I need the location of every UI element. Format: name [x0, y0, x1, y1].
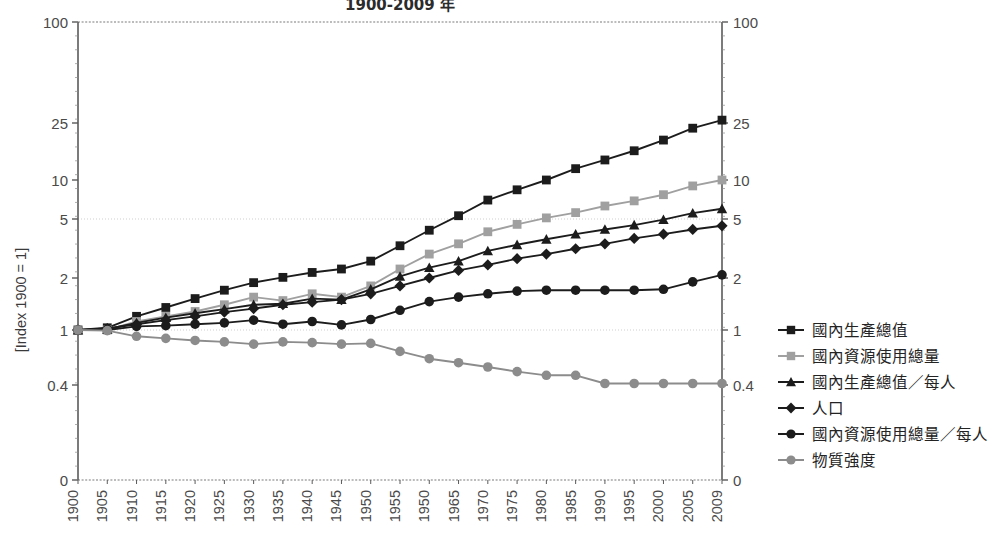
y-tick-label-left: 1 [60, 322, 68, 339]
data-point [629, 285, 639, 295]
x-tick-label: 1970 [475, 490, 491, 522]
data-point [161, 321, 171, 331]
chart-title: 1900-2009 年 [345, 0, 455, 14]
data-point [600, 285, 610, 295]
chart-container: 1900-2009 年 10025105210.40 10025105210.4… [0, 0, 1006, 548]
data-point [571, 371, 581, 381]
y-tick-label-left: 0 [60, 472, 68, 489]
x-tick-label: 1955 [387, 490, 403, 522]
x-tick-label: 1905 [94, 490, 110, 522]
data-point [132, 332, 142, 342]
x-tick-label: 1900 [65, 490, 81, 522]
x-tick-label: 1910 [124, 490, 140, 522]
data-point [483, 196, 492, 205]
data-point [249, 339, 259, 349]
x-tick-label: 1940 [299, 490, 315, 522]
data-point [542, 371, 552, 381]
data-point [718, 176, 727, 185]
x-tick-label: 1950 [358, 490, 374, 522]
data-point [396, 241, 405, 250]
data-point [395, 306, 405, 316]
data-point [571, 285, 581, 295]
data-point [688, 277, 698, 287]
y-tick-label-left: 10 [51, 172, 68, 189]
data-point [220, 318, 230, 328]
legend-label: 國內資源使用總量／每人 [812, 426, 988, 444]
data-point [688, 379, 698, 389]
x-tick-label: 2005 [680, 490, 696, 522]
data-point [337, 265, 346, 274]
data-point [279, 273, 288, 282]
legend-label: 國內生產總值 [812, 322, 908, 340]
data-point [630, 196, 639, 205]
data-point [454, 292, 464, 302]
data-point [513, 220, 522, 229]
data-point [659, 379, 669, 389]
data-point [425, 226, 434, 235]
y-tick-label-left: 5 [60, 211, 68, 228]
data-point [512, 286, 522, 296]
data-point [600, 379, 610, 389]
y-tick-label-right: 100 [733, 14, 758, 31]
data-point [483, 227, 492, 236]
data-point [366, 339, 376, 349]
data-point [424, 297, 434, 307]
data-point [337, 339, 347, 349]
x-tick-label: 1990 [592, 490, 608, 522]
data-point [629, 379, 639, 389]
data-point [161, 303, 170, 312]
y-tick-label-right: 10 [733, 172, 750, 189]
data-point [717, 379, 727, 389]
legend-label: 國內生產總值／每人 [812, 374, 956, 392]
y-tick-label-right: 0.4 [733, 377, 754, 394]
data-point [659, 285, 669, 295]
data-point [601, 202, 610, 211]
data-point [659, 136, 668, 145]
data-point [601, 156, 610, 165]
x-tick-label: 2009 [709, 490, 725, 522]
x-tick-label: 1920 [182, 490, 198, 522]
data-point [571, 164, 580, 173]
data-point [337, 320, 347, 330]
index-growth-line-chart: 1900-2009 年 10025105210.40 10025105210.4… [0, 0, 1006, 548]
data-point [102, 326, 112, 336]
data-point [542, 213, 551, 222]
data-point [483, 362, 493, 372]
data-point [425, 250, 434, 259]
legend-label: 人口 [812, 400, 844, 418]
data-point [542, 176, 551, 185]
data-point [220, 337, 230, 347]
data-point [307, 317, 317, 327]
data-point [190, 336, 200, 346]
y-tick-label-right: 1 [733, 322, 741, 339]
x-tick-label: 1985 [563, 490, 579, 522]
data-point [190, 319, 200, 329]
legend-marker-square [787, 352, 795, 360]
data-point [307, 338, 317, 348]
data-point [512, 367, 522, 377]
x-tick-label: 1945 [328, 490, 344, 522]
data-point [688, 124, 697, 133]
x-tick-label: 1915 [153, 490, 169, 522]
data-point [630, 146, 639, 155]
x-tick-label: 1925 [211, 490, 227, 522]
x-tick-label: 2000 [650, 490, 666, 522]
data-point [454, 211, 463, 220]
data-point [542, 285, 552, 295]
data-point [688, 182, 697, 191]
x-tick-label: 1965 [446, 490, 462, 522]
data-point [483, 289, 493, 299]
data-point [308, 268, 317, 277]
data-point [278, 337, 288, 347]
x-tick-label: 1995 [621, 490, 637, 522]
data-point [278, 319, 288, 329]
data-point [571, 208, 580, 217]
data-point [220, 286, 229, 295]
data-point [249, 315, 259, 325]
y-tick-label-right: 5 [733, 211, 741, 228]
data-point [513, 185, 522, 194]
x-tick-label: 1980 [533, 490, 549, 522]
data-point [73, 325, 83, 335]
x-tick-label: 1930 [241, 490, 257, 522]
y-tick-label-left: 2 [60, 270, 68, 287]
